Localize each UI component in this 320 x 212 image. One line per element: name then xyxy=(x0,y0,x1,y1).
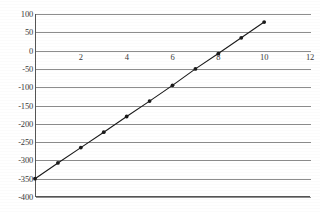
chart-container: 100500-50-100-150-200-250-300-350-400 24… xyxy=(0,0,320,212)
data-point-marker xyxy=(33,177,37,181)
data-point-marker xyxy=(194,67,198,71)
data-point-marker xyxy=(262,20,266,24)
data-point-marker xyxy=(148,99,152,103)
data-point-marker xyxy=(102,130,106,134)
data-point-marker xyxy=(56,161,60,165)
data-point-marker xyxy=(79,146,83,150)
data-point-marker xyxy=(216,52,220,56)
data-point-marker xyxy=(171,83,175,87)
data-point-marker xyxy=(239,36,243,40)
data-point-marker xyxy=(125,115,129,119)
data-series-layer xyxy=(0,0,320,212)
